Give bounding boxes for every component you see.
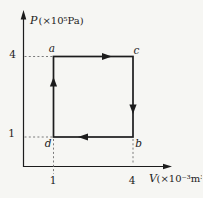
x-axis-arrow-icon [163, 164, 172, 170]
pv-diagram-figure: P (×10⁵Pa) V (×10⁻³m³) 4 1 1 4 a c b d [0, 0, 202, 198]
y-axis-symbol: P [29, 14, 38, 27]
y-axis-arrow-icon [21, 10, 27, 20]
arrow-up-edge-da-icon [50, 77, 57, 87]
point-label-d: d [45, 137, 52, 149]
arrow-left-edge-bd-icon [78, 133, 88, 140]
arrow-right-edge-ac-icon [102, 53, 112, 60]
x-tick-4: 4 [129, 174, 136, 186]
pv-diagram-svg: P (×10⁵Pa) V (×10⁻³m³) 4 1 1 4 a c b d [0, 0, 202, 198]
point-label-a: a [49, 42, 55, 54]
point-label-c: c [134, 44, 140, 56]
y-axis-unit: (×10⁵Pa) [39, 15, 84, 26]
point-label-b: b [135, 137, 142, 149]
x-axis-unit: (×10⁻³m³) [157, 173, 203, 184]
arrow-down-edge-cb-icon [129, 105, 136, 115]
cycle-rectangle [54, 57, 134, 138]
y-tick-1: 1 [8, 127, 15, 139]
x-tick-1: 1 [50, 174, 57, 186]
y-tick-4: 4 [9, 48, 16, 60]
